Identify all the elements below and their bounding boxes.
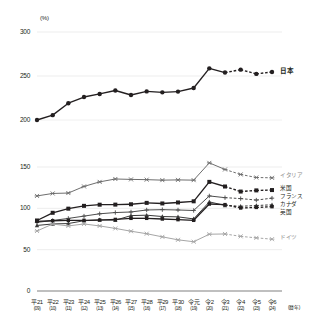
y-axis-tick: 200 [8,116,30,123]
series-label-カナダ: カナダ [280,200,297,208]
x-axis-unit-label: (暦年) [288,303,300,310]
series-0 [35,66,274,122]
x-axis-tick-era: 令6 [261,297,283,306]
y-axis-tick: 50 [8,246,30,253]
y-axis-tick: 0 [8,287,30,294]
y-axis-tick: 300 [8,28,30,35]
y-axis-tick: 250 [8,72,30,79]
series-label-英国: 英国 [280,208,291,216]
series-label-ドイツ: ドイツ [280,233,297,241]
series-5 [35,202,273,223]
series-label-米国: 米国 [280,184,291,192]
x-axis-tick-year: (24) [261,306,283,311]
series-6 [35,222,275,244]
series-label-日本: 日本 [280,65,293,75]
chart-plot-area [0,0,318,315]
y-axis-unit-label: (%) [40,15,49,21]
y-axis-tick: 100 [8,204,30,211]
series-1 [35,161,275,198]
series-label-イタリア: イタリア [280,171,302,179]
y-axis-tick: 150 [8,163,30,170]
chart-container: (%) 200250300050100150 平21(09)平22(10)平23… [0,0,318,315]
